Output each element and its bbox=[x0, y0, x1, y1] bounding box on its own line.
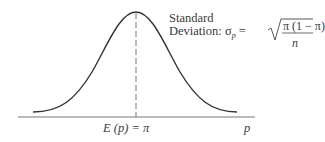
annotation-prefix: Deviation: bbox=[169, 24, 225, 38]
sigma-symbol: σ bbox=[225, 24, 232, 38]
mean-label: E (p) = π bbox=[103, 122, 149, 135]
formula-denominator: n bbox=[292, 37, 298, 50]
mean-label-text: E (p) = π bbox=[103, 121, 149, 135]
equals-sign: = bbox=[236, 24, 246, 38]
sigma-subscript: p bbox=[232, 31, 236, 40]
x-axis-label: p bbox=[244, 122, 250, 135]
formula-numerator: π (1 − π) bbox=[283, 20, 325, 33]
annotation-line2: Deviation: σp = bbox=[169, 25, 246, 39]
